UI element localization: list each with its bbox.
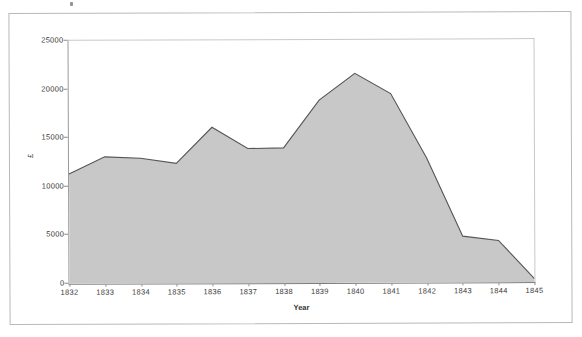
- y-tick-label: 5000: [46, 230, 64, 239]
- x-axis-ticklabels: 1832183318341835183618371838183918401841…: [68, 286, 534, 302]
- plot-area: [68, 38, 536, 285]
- y-tick-label: 25000: [41, 35, 63, 44]
- chart-inner: £ 0500010000150002000025000 183218331834…: [9, 12, 571, 324]
- x-tick-label: 1834: [132, 288, 150, 297]
- y-tick-label: 20000: [41, 84, 63, 93]
- x-tick-label: 1838: [275, 287, 293, 296]
- x-tick-label: 1832: [61, 288, 79, 297]
- y-axis-ticklabels: 0500010000150002000025000: [10, 40, 65, 283]
- x-tick-label: 1842: [418, 286, 436, 295]
- scan-speck: [70, 2, 73, 6]
- x-tick-label: 1835: [168, 287, 186, 296]
- area-series-chart: [69, 39, 535, 284]
- x-tick-label: 1839: [311, 287, 329, 296]
- x-tick-label: 1836: [204, 287, 222, 296]
- y-tick-label: 10000: [42, 181, 64, 190]
- x-axis-title: Year: [69, 302, 535, 313]
- x-tick-label: 1844: [490, 286, 508, 295]
- y-tick-label: 15000: [42, 133, 64, 142]
- x-tick-label: 1840: [347, 287, 365, 296]
- x-tick-label: 1843: [454, 286, 472, 295]
- x-tick-label: 1845: [526, 286, 544, 295]
- x-tick-label: 1841: [382, 287, 400, 296]
- x-tick-label: 1833: [96, 288, 114, 297]
- chart-frame: £ 0500010000150002000025000 183218331834…: [8, 11, 572, 325]
- area-fill: [69, 73, 535, 284]
- x-tick-label: 1837: [239, 287, 257, 296]
